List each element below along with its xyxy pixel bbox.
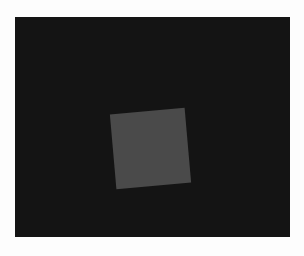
image-canvas — [15, 17, 290, 237]
rotated-gray-square — [110, 108, 191, 189]
